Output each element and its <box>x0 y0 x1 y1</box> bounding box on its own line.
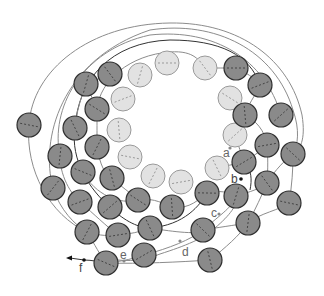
label-c: c <box>211 206 217 220</box>
point-f <box>82 258 86 262</box>
point-b <box>239 177 243 181</box>
spiral-circle-diagram: a b c d e f <box>0 0 324 296</box>
label-f: f <box>79 261 83 275</box>
point-d <box>178 239 181 242</box>
dark-circles <box>17 56 305 275</box>
label-a: a <box>223 146 230 160</box>
arrow-head-icon <box>66 256 72 261</box>
label-d: d <box>182 245 189 259</box>
label-e: e <box>120 248 127 262</box>
label-b: b <box>231 172 238 186</box>
point-c <box>217 212 220 215</box>
